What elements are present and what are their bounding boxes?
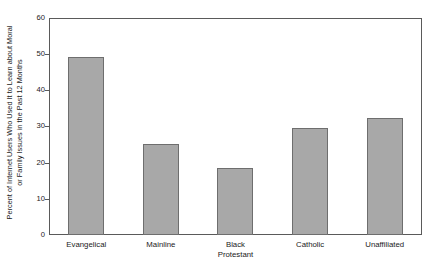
x-tick-label-black-protestant-line-1: Black (226, 240, 245, 249)
y-tick-label-20: 20 (23, 159, 45, 167)
bar-evangelical[interactable] (68, 57, 104, 235)
y-tick-label-40: 40 (23, 86, 45, 94)
x-tick-label-unaffiliated-line-1: Unaffiliated (365, 240, 404, 249)
y-axis-title-line-1: Percent of Internet Users Who Used It to… (6, 26, 15, 220)
y-tick-label-10: 10 (23, 195, 45, 203)
x-tick-label-mainline: Mainline (124, 240, 199, 250)
x-tick-label-catholic: Catholic (273, 240, 348, 250)
bar-slot-catholic (273, 18, 348, 235)
x-tick-label-black-protestant: Black Protestant (198, 240, 273, 260)
bars-layer (49, 18, 422, 235)
x-tick-label-evangelical: Evangelical (49, 240, 124, 250)
y-tick-label-60: 60 (23, 14, 45, 22)
bar-slot-black-protestant (198, 18, 273, 235)
bar-slot-evangelical (49, 18, 124, 235)
x-tick-label-catholic-line-1: Catholic (296, 240, 324, 249)
bar-slot-unaffiliated (347, 18, 422, 235)
x-tick-label-black-protestant-line-2: Protestant (198, 250, 273, 260)
x-tick-label-evangelical-line-1: Evangelical (66, 240, 106, 249)
x-tick-label-unaffiliated: Unaffiliated (347, 240, 422, 250)
y-tick-label-50: 50 (23, 50, 45, 58)
bar-unaffiliated[interactable] (367, 118, 403, 235)
bar-chart-figure: Percent of Internet Users Who Used It to… (0, 0, 435, 269)
y-tick-label-0: 0 (23, 231, 45, 239)
bar-black-protestant[interactable] (217, 168, 253, 235)
y-tick-label-30: 30 (23, 122, 45, 130)
bar-slot-mainline (124, 18, 199, 235)
x-tick-label-mainline-line-1: Mainline (146, 240, 175, 249)
bar-mainline[interactable] (143, 144, 179, 235)
bar-catholic[interactable] (292, 128, 328, 235)
